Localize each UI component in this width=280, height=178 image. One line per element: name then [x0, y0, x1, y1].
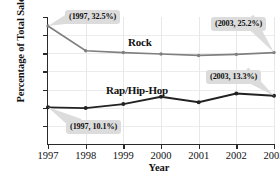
x-tick-label: 2002 [216, 150, 256, 161]
callout-rap-2003: (2003, 13.3%) [206, 70, 261, 84]
gridline-v [274, 17, 275, 144]
x-tick-label: 2001 [179, 150, 219, 161]
x-tick [48, 144, 49, 149]
x-tick [86, 144, 87, 149]
callout-rock-2003: (2003, 25.2%) [211, 17, 266, 31]
series-label-rock: Rock [128, 36, 152, 48]
callout-rap-1997: (1997, 10.1%) [66, 120, 121, 134]
y-axis-title: Percentage of Total Sales [15, 0, 29, 118]
x-tick [274, 144, 275, 149]
x-tick-label: 1997 [28, 150, 68, 161]
series-label-rap: Rap/Hip-Hop [106, 84, 168, 96]
callout-rock-1997: (1997, 32.5%) [65, 10, 120, 24]
x-tick [161, 144, 162, 149]
x-tick-label: 1998 [66, 150, 106, 161]
chart-figure: Percentage of Total Sales Year 35% 30% 2… [0, 0, 280, 178]
x-tick-label: 2003 [254, 150, 280, 161]
x-axis-title: Year [44, 162, 274, 173]
x-tick [123, 144, 124, 149]
x-tick [199, 144, 200, 149]
x-tick-label: 2000 [141, 150, 181, 161]
x-tick-label: 1999 [103, 150, 143, 161]
x-tick [236, 144, 237, 149]
